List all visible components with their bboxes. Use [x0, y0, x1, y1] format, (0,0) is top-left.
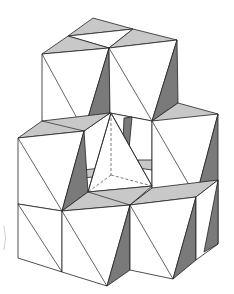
- diagram: [0, 0, 234, 294]
- upper-right-cube: [109, 40, 178, 121]
- scan-mark: [4, 226, 6, 250]
- cube-packing-figure: [0, 0, 234, 294]
- bottom-left-cube: [18, 204, 130, 286]
